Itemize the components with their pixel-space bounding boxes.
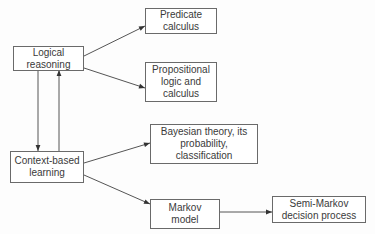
node-bayesian-theory: Bayesian theory, its probability, classi… [150,124,258,164]
node-logical-reasoning: Logical reasoning [13,46,84,71]
node-predicate-calculus: Predicate calculus [145,8,217,34]
diagram-canvas: Logical reasoning Predicate calculus Pro… [0,0,375,234]
edge-context-to-bayesian [84,143,150,163]
node-propositional-logic: Propositional logic and calculus [145,62,217,102]
node-markov-model: Markov model [150,199,220,229]
edge-logical-to-predicate [84,26,145,56]
edge-context-to-markov [84,175,150,204]
node-context-based-learning: Context-based learning [10,151,84,183]
node-semi-markov-decision-process: Semi-Markov decision process [272,196,366,223]
edge-logical-to-propositional [84,68,145,88]
